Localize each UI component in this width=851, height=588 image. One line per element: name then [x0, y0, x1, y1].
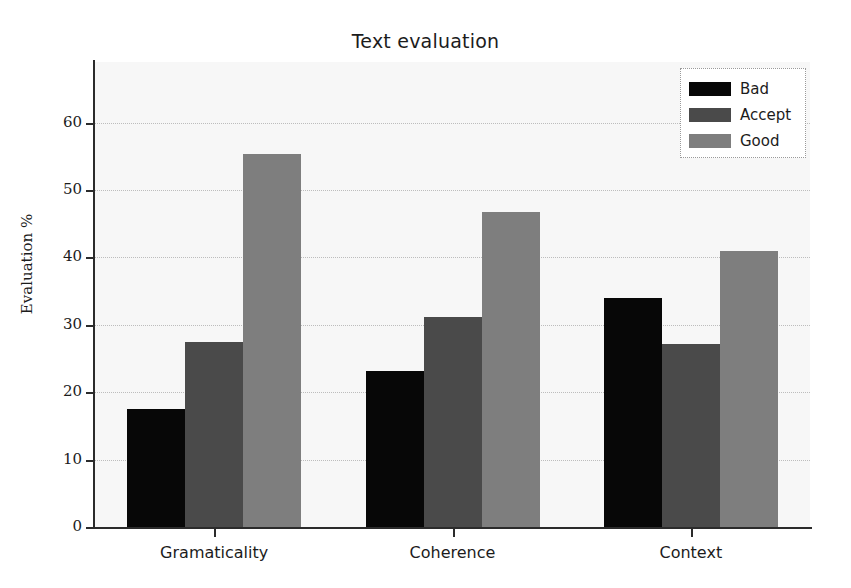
bar-good-gramaticality [243, 154, 301, 527]
y-axis-tick-mark [86, 123, 93, 125]
bar-accept-context [662, 344, 720, 527]
bar-accept-gramaticality [185, 342, 243, 527]
y-axis-tick-label: 50 [22, 180, 82, 198]
y-axis-tick-label: 40 [22, 247, 82, 265]
bar-bad-gramaticality [127, 409, 185, 527]
x-axis-tick-label: Context [591, 543, 791, 562]
y-axis-tick-label: 20 [22, 382, 82, 400]
bar-good-context [720, 251, 778, 527]
legend-swatch-good [689, 134, 731, 148]
x-axis-tick-mark [691, 529, 693, 537]
bar-bad-coherence [366, 371, 424, 527]
y-axis-tick-mark [86, 257, 93, 259]
legend-item-accept[interactable]: Accept [689, 102, 797, 128]
legend-label: Bad [740, 82, 769, 97]
chart-title: Text evaluation [0, 30, 851, 52]
y-axis-tick-mark [86, 190, 93, 192]
x-axis-tick-label: Gramaticality [114, 543, 314, 562]
bar-accept-coherence [424, 317, 482, 527]
y-axis-tick-mark [86, 325, 93, 327]
legend-item-bad[interactable]: Bad [689, 76, 797, 102]
y-axis-tick-mark [86, 527, 93, 529]
y-axis-tick-mark [86, 460, 93, 462]
legend-swatch-bad [689, 82, 731, 96]
legend-item-good[interactable]: Good [689, 128, 797, 154]
x-axis-tick-mark [453, 529, 455, 537]
x-axis-tick-mark [214, 529, 216, 537]
bar-bad-context [604, 298, 662, 527]
chart-figure: Text evaluation Evaluation % 01020304050… [0, 0, 851, 588]
bar-good-coherence [482, 212, 540, 527]
y-axis-tick-label: 30 [22, 315, 82, 333]
legend-label: Accept [740, 108, 791, 123]
y-axis-tick-mark [86, 392, 93, 394]
x-axis-tick-label: Coherence [353, 543, 553, 562]
y-axis-tick-label: 60 [22, 113, 82, 131]
chart-legend: BadAcceptGood [680, 68, 806, 158]
legend-label: Good [740, 134, 780, 149]
y-axis-tick-label: 10 [22, 450, 82, 468]
y-axis-tick-labels: 0102030405060 [14, 0, 82, 588]
legend-swatch-accept [689, 108, 731, 122]
y-axis-tick-label: 0 [22, 517, 82, 535]
